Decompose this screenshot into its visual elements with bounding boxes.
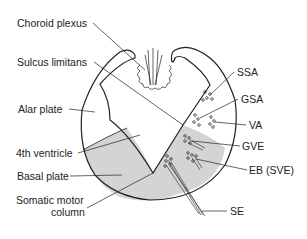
label-se: SE <box>230 206 244 217</box>
label-alar-plate: Alar plate <box>18 104 62 115</box>
label-ssa: SSA <box>237 67 258 78</box>
label-gsa: GSA <box>241 94 263 105</box>
label-4th-ventricle: 4th ventricle <box>16 148 73 159</box>
choroid-plexus <box>138 48 172 89</box>
label-column: column <box>51 207 85 218</box>
label-eb-sve: EB (SVE) <box>249 165 294 176</box>
label-somatic-motor: Somatic motor <box>16 195 84 206</box>
label-basal-plate: Basal plate <box>17 171 69 182</box>
label-sulcus-limitans: Sulcus limitans <box>17 57 87 68</box>
label-choroid-plexus: Choroid plexus <box>17 18 87 29</box>
label-gve: GVE <box>242 141 264 152</box>
label-va: VA <box>249 120 262 131</box>
basal-plate-shading <box>83 125 225 201</box>
